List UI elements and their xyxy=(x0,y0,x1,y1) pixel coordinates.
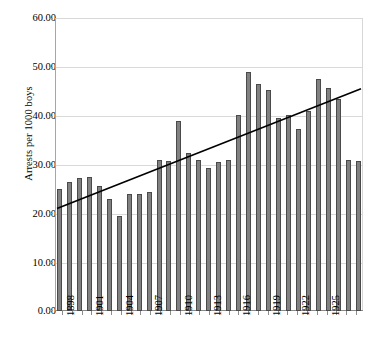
bar xyxy=(157,160,162,311)
y-tick-mark-50 xyxy=(49,67,53,68)
bar xyxy=(306,111,311,311)
bar xyxy=(67,182,72,311)
bar xyxy=(137,194,142,311)
bar xyxy=(356,161,361,311)
bar xyxy=(107,199,112,311)
y-tick-mark-20 xyxy=(49,213,53,214)
bar xyxy=(97,186,102,311)
x-tick-label: 1898 xyxy=(66,295,76,316)
x-tick-mark xyxy=(209,311,210,315)
y-tick-label-0: 0.00 xyxy=(10,306,56,316)
x-tick-mark xyxy=(238,311,239,315)
bar xyxy=(226,160,231,311)
x-tick-mark xyxy=(91,311,92,315)
bar xyxy=(236,115,241,311)
x-tick-mark xyxy=(327,311,328,315)
bar xyxy=(246,72,251,311)
y-tick-label-10: 10.00 xyxy=(10,258,56,268)
bar xyxy=(326,88,331,311)
y-tick-mark-30 xyxy=(49,165,53,166)
bar xyxy=(176,121,181,311)
bar xyxy=(127,194,132,311)
x-tick-label: 1901 xyxy=(95,295,105,316)
bar xyxy=(266,90,271,311)
y-tick-label-20: 20.00 xyxy=(10,209,56,219)
x-tick-mark xyxy=(170,311,171,315)
bar xyxy=(186,153,191,311)
bar xyxy=(336,99,341,311)
bar xyxy=(206,168,211,311)
y-tick-mark-10 xyxy=(49,262,53,263)
x-tick-label: 1913 xyxy=(213,295,223,316)
x-tick-mark xyxy=(140,311,141,315)
x-axis-labels: 1898190119041907191019131916191919221925 xyxy=(55,316,363,364)
bar xyxy=(216,162,221,311)
x-tick-mark xyxy=(121,311,122,315)
y-tick-mark-40 xyxy=(49,116,53,117)
bar xyxy=(147,192,152,311)
x-tick-mark xyxy=(317,311,318,315)
x-tick-mark xyxy=(356,311,357,315)
bar xyxy=(276,118,281,311)
bar xyxy=(286,115,291,311)
x-tick-mark xyxy=(199,311,200,315)
x-tick-label: 1907 xyxy=(154,295,164,316)
x-tick-label: 1904 xyxy=(125,295,135,316)
x-tick-mark xyxy=(150,311,151,315)
x-tick-mark xyxy=(346,311,347,315)
bar xyxy=(196,160,201,311)
x-tick-mark xyxy=(287,311,288,315)
x-tick-mark xyxy=(258,311,259,315)
x-tick-label: 1925 xyxy=(331,295,341,316)
x-tick-label: 1916 xyxy=(242,295,252,316)
x-tick-mark xyxy=(180,311,181,315)
bar xyxy=(87,177,92,311)
x-tick-mark xyxy=(82,311,83,315)
y-tick-mark-0 xyxy=(49,310,53,311)
x-tick-mark xyxy=(268,311,269,315)
bar xyxy=(256,84,261,311)
x-tick-mark xyxy=(229,311,230,315)
bar-chart: Arrests per 1000 boys 60.00 50.00 40.00 … xyxy=(0,0,369,364)
bar xyxy=(57,189,62,311)
bar xyxy=(77,178,82,311)
x-tick-label: 1922 xyxy=(301,295,311,316)
bar xyxy=(296,129,301,311)
bar-series xyxy=(55,18,363,311)
bar xyxy=(117,216,122,311)
x-tick-label: 1919 xyxy=(272,295,282,316)
bar xyxy=(316,79,321,311)
x-tick-mark xyxy=(62,311,63,315)
bar xyxy=(166,161,171,311)
x-tick-label: 1910 xyxy=(184,295,194,316)
x-tick-mark xyxy=(111,311,112,315)
y-axis-title: Arrests per 1000 boys xyxy=(23,54,34,214)
y-tick-mark-60 xyxy=(49,18,53,19)
bar xyxy=(346,160,351,311)
x-tick-mark xyxy=(297,311,298,315)
